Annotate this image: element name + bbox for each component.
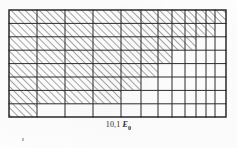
caption-number: 10,1 <box>106 120 121 129</box>
scan-speck <box>22 138 24 141</box>
caption-subscript: 0 <box>128 125 131 131</box>
figure-caption: 10,1E0 <box>0 120 237 131</box>
figure-container: 10,1E0 <box>0 0 237 148</box>
caption-symbol: E <box>121 120 129 129</box>
